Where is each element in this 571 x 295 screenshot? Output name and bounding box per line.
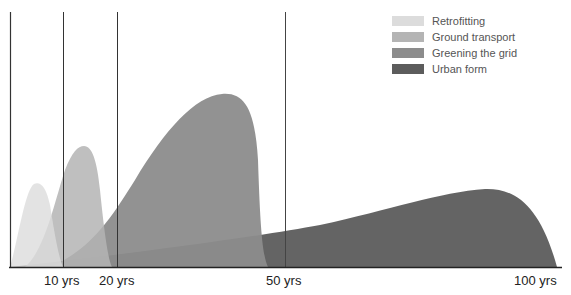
legend-item-greening-the-grid: Greening the grid [392,45,517,61]
legend-label: Greening the grid [432,47,517,59]
x-tick-100-yrs: 100 yrs [514,273,557,288]
legend-label: Urban form [432,63,487,75]
x-tick-50-yrs: 50 yrs [266,273,301,288]
legend-item-urban-form: Urban form [392,61,517,77]
legend-label: Retrofitting [432,15,485,27]
legend-label: Ground transport [432,31,515,43]
x-tick-10-yrs: 10 yrs [44,273,79,288]
legend-item-ground-transport: Ground transport [392,29,517,45]
legend-swatch-greening-the-grid [392,48,424,58]
legend: Retrofitting Ground transport Greening t… [392,13,517,77]
legend-swatch-ground-transport [392,32,424,42]
legend-swatch-retrofitting [392,16,424,26]
legend-swatch-urban-form [392,64,424,74]
legend-item-retrofitting: Retrofitting [392,13,517,29]
x-tick-20-yrs: 20 yrs [99,273,134,288]
